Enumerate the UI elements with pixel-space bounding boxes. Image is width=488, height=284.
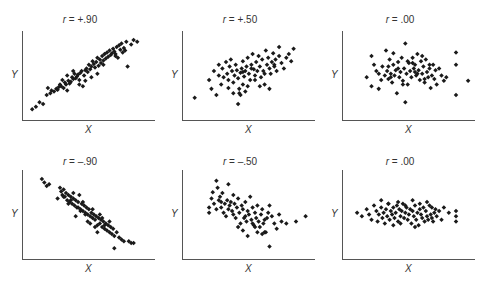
- data-point: [380, 64, 385, 69]
- data-point: [274, 226, 279, 231]
- data-point: [226, 78, 231, 83]
- data-point: [267, 66, 272, 71]
- panel-r-neg90: r = –.90 Y X: [0, 142, 160, 284]
- data-point: [215, 186, 220, 191]
- data-point: [277, 54, 282, 59]
- data-point: [236, 102, 241, 107]
- data-point: [254, 216, 259, 221]
- data-point: [90, 207, 95, 212]
- data-point: [279, 219, 284, 224]
- data-point: [287, 52, 292, 57]
- panel-r-pos50: r = +.50 Y X: [160, 0, 320, 142]
- data-point: [232, 202, 237, 207]
- scatter-plot: [0, 0, 160, 142]
- data-point: [245, 55, 250, 60]
- data-point: [237, 210, 242, 215]
- data-point: [267, 244, 272, 249]
- data-point: [71, 191, 76, 196]
- data-point: [233, 63, 238, 68]
- data-point: [270, 214, 275, 219]
- data-point: [42, 180, 47, 185]
- data-point: [129, 42, 134, 47]
- data-point: [241, 59, 246, 64]
- data-point: [239, 66, 244, 71]
- data-point: [247, 71, 252, 76]
- data-point: [238, 221, 243, 226]
- data-point: [390, 80, 395, 85]
- data-point: [412, 66, 417, 71]
- data-point: [372, 203, 377, 208]
- data-point: [244, 219, 249, 224]
- data-point: [214, 207, 219, 212]
- data-point: [454, 63, 459, 68]
- data-point: [410, 55, 415, 60]
- data-point: [271, 51, 276, 56]
- data-point: [367, 212, 372, 217]
- data-point: [235, 205, 240, 210]
- data-point: [420, 71, 425, 76]
- data-point: [418, 202, 423, 207]
- data-point: [372, 63, 377, 68]
- data-point: [381, 210, 386, 215]
- data-point: [231, 212, 236, 217]
- data-point: [404, 71, 409, 76]
- scatter-plot: [160, 0, 320, 142]
- data-point: [40, 177, 45, 182]
- data-point: [219, 82, 224, 87]
- data-point: [439, 218, 444, 223]
- data-point: [255, 230, 260, 235]
- data-point: [220, 66, 225, 71]
- data-point: [231, 193, 236, 198]
- data-point: [236, 225, 241, 230]
- data-point: [418, 78, 423, 83]
- data-point: [389, 209, 394, 214]
- data-point: [217, 63, 222, 68]
- data-point: [392, 216, 397, 221]
- data-point: [391, 51, 396, 56]
- data-point: [259, 75, 264, 80]
- data-point: [267, 203, 272, 208]
- data-point: [395, 91, 400, 96]
- data-point: [241, 207, 246, 212]
- data-point: [284, 221, 289, 226]
- data-point: [424, 209, 429, 214]
- data-point: [369, 54, 374, 59]
- data-point: [241, 228, 246, 233]
- data-point: [408, 69, 413, 74]
- data-point: [439, 73, 444, 78]
- data-point: [231, 91, 236, 96]
- panel-r-zero-bottom: r = .00 Y X: [320, 142, 480, 284]
- data-point: [387, 57, 392, 62]
- data-point: [248, 78, 253, 83]
- data-point: [414, 218, 419, 223]
- data-point: [214, 178, 219, 183]
- data-point: [207, 205, 212, 210]
- data-point: [245, 234, 250, 239]
- data-point: [259, 212, 264, 217]
- data-point: [227, 64, 232, 69]
- data-point: [396, 200, 401, 205]
- data-point: [258, 64, 263, 69]
- scatter-plot: [320, 142, 480, 284]
- data-point: [220, 191, 225, 196]
- data-point: [192, 96, 197, 101]
- data-point: [245, 84, 250, 89]
- data-point: [73, 214, 78, 219]
- data-point: [224, 60, 229, 65]
- data-point: [267, 87, 272, 92]
- data-point: [415, 52, 420, 57]
- data-point: [255, 203, 260, 208]
- data-point: [112, 246, 117, 251]
- data-point: [425, 200, 430, 205]
- data-point: [212, 69, 217, 74]
- data-point: [385, 214, 390, 219]
- data-point: [245, 209, 250, 214]
- data-point: [369, 84, 374, 89]
- data-point: [114, 230, 119, 235]
- data-point: [277, 212, 282, 217]
- data-point: [211, 190, 216, 195]
- data-point: [419, 59, 424, 64]
- data-point: [427, 63, 432, 68]
- data-point: [466, 79, 471, 84]
- data-point: [209, 87, 214, 92]
